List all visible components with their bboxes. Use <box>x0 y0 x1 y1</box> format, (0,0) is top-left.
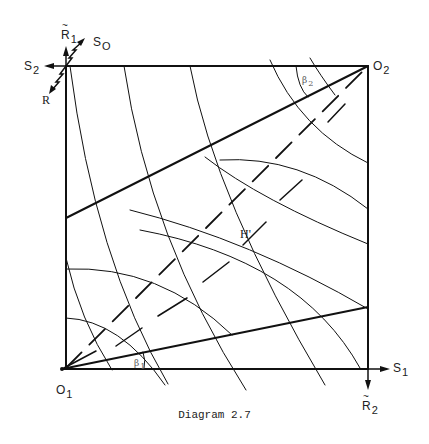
label-r: R <box>42 94 50 106</box>
s2-sub: 2 <box>33 64 39 76</box>
beta1-letter: β <box>134 358 139 368</box>
label-o2: O2 <box>373 60 389 72</box>
label-s1: S1 <box>393 362 408 374</box>
r-zigzag-arrow <box>52 66 66 90</box>
r1-sub: 1 <box>71 33 77 45</box>
s2-arrowhead <box>44 63 54 69</box>
tangent-bar-2 <box>158 298 187 316</box>
so-sub: O <box>102 40 111 52</box>
beta2-sub: 2 <box>308 79 313 88</box>
beta1-sub: 1 <box>140 362 145 371</box>
curve-b <box>124 66 246 390</box>
label-so: SO <box>93 36 111 48</box>
so-zigzag-arrow <box>66 42 82 66</box>
label-h-prime: H' <box>240 228 251 240</box>
r1-letter: R <box>61 28 70 42</box>
label-s2: S2 <box>24 60 39 72</box>
curve-i <box>220 160 368 209</box>
diagram-caption: Diagram 2.7 <box>0 409 429 421</box>
r-letter: R <box>42 93 50 107</box>
tangent-bar-3 <box>203 262 229 282</box>
s1-arrowhead <box>380 366 390 372</box>
ray-from-o2 <box>66 66 368 218</box>
edgeworth-box-diagram <box>0 0 429 444</box>
o1-letter: O <box>56 383 65 397</box>
tangent-bar-5 <box>280 180 302 200</box>
dashed-diagonal <box>66 66 368 368</box>
h-prime-text: H' <box>240 227 251 241</box>
s1-letter: S <box>393 361 401 375</box>
curve-j <box>205 157 368 244</box>
curve-h <box>66 258 112 370</box>
label-o1: O1 <box>56 384 72 396</box>
curve-d <box>270 60 368 163</box>
s2-letter: S <box>24 59 32 73</box>
so-letter: S <box>93 35 101 49</box>
o2-sub: 2 <box>383 64 389 76</box>
curve-k <box>130 210 368 309</box>
r1-arrowhead <box>63 46 69 56</box>
s1-sub: 1 <box>402 366 408 378</box>
label-r1-tilde: R1 <box>61 29 77 41</box>
r2-arrowhead <box>365 380 371 390</box>
tangent-bar-6 <box>328 104 345 122</box>
label-beta2: β2 <box>302 76 313 85</box>
o2-letter: O <box>373 59 382 73</box>
beta2-letter: β <box>302 75 307 85</box>
o1-dot <box>60 367 64 371</box>
curve-c <box>190 66 325 385</box>
o1-sub: 1 <box>66 388 72 400</box>
label-beta1: β1 <box>134 359 145 368</box>
